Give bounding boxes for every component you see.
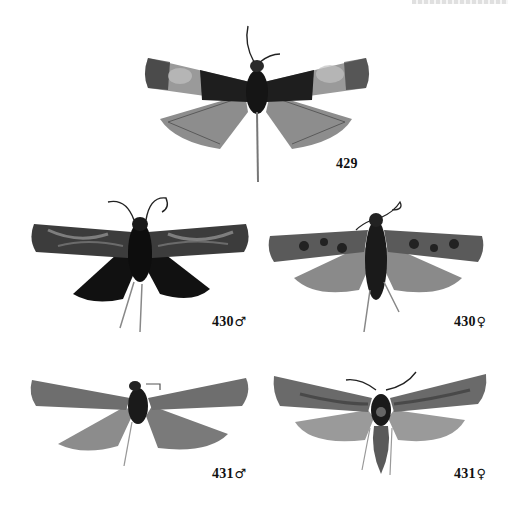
female-symbol-icon: ♀ xyxy=(477,466,487,481)
figure-label-431-female: 431♀ xyxy=(454,466,486,482)
moth-specimen-430-male xyxy=(28,194,253,334)
moth-specimen-431-female xyxy=(270,370,490,480)
figure-label-431-male: 431♂ xyxy=(212,466,246,482)
figure-number: 431 xyxy=(454,466,476,481)
female-symbol-icon: ♀ xyxy=(477,314,487,329)
figure-number: 429 xyxy=(336,156,358,171)
figure-number: 430 xyxy=(454,314,476,329)
figure-number: 431 xyxy=(212,466,234,481)
moth-431-male-image xyxy=(28,376,253,471)
figure-number: 430 xyxy=(212,314,234,329)
specimen-plate: 429 430♂ xyxy=(0,0,519,511)
figure-label-429: 429 xyxy=(336,156,358,172)
moth-430-male-image xyxy=(28,194,253,334)
figure-label-430-female: 430♀ xyxy=(454,314,486,330)
male-symbol-icon: ♂ xyxy=(235,314,247,329)
cropped-header-text xyxy=(412,0,508,4)
figure-label-430-male: 430♂ xyxy=(212,314,246,330)
male-symbol-icon: ♂ xyxy=(235,466,247,481)
moth-specimen-431-male xyxy=(28,376,253,471)
moth-431-female-image xyxy=(270,370,490,480)
